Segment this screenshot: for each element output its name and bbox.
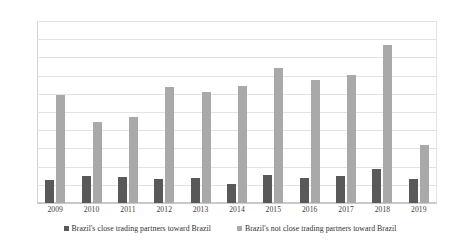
bar-group [110, 21, 146, 203]
bar-group [182, 21, 218, 203]
x-axis-tick-label: 2016 [292, 205, 328, 214]
x-axis-tick-label: 2013 [183, 205, 219, 214]
bar-group [255, 21, 291, 203]
bar-group [73, 21, 109, 203]
bar [154, 179, 163, 203]
bar [82, 176, 91, 203]
bar [118, 177, 127, 203]
bar [300, 178, 309, 203]
bar-group [219, 21, 255, 203]
x-axis-tick-label: 2018 [364, 205, 400, 214]
bar [274, 68, 283, 203]
bar-group [146, 21, 182, 203]
bar-chart: 050100150200250300350400450500 200920102… [0, 0, 460, 251]
bar [202, 92, 211, 203]
legend-item[interactable]: Brazil's close trading partners toward B… [64, 224, 211, 233]
x-axis: 2009201020112012201320142015201620172018… [37, 204, 437, 218]
bar-group [328, 21, 364, 203]
bars-layer [37, 21, 437, 203]
bar [129, 117, 138, 203]
legend-item-label: Brazil's close trading partners toward B… [72, 224, 211, 233]
bar [227, 184, 236, 203]
bar-group [37, 21, 73, 203]
bar [347, 75, 356, 203]
bar [93, 122, 102, 203]
bar [372, 169, 381, 203]
bar [191, 178, 200, 203]
bar-group [292, 21, 328, 203]
bar [336, 176, 345, 203]
bar [420, 145, 429, 203]
x-axis-tick-label: 2019 [401, 205, 437, 214]
bar [56, 95, 65, 203]
bar-group [364, 21, 400, 203]
chart-legend: Brazil's close trading partners toward B… [0, 224, 460, 233]
bar [383, 45, 392, 203]
legend-item-label: Brazil's not close trading partners towa… [245, 224, 397, 233]
bar [263, 175, 272, 203]
bar [165, 87, 174, 203]
x-axis-tick-label: 2015 [255, 205, 291, 214]
bar [311, 80, 320, 203]
bar [238, 86, 247, 203]
bar [45, 180, 54, 203]
legend-swatch-icon [64, 226, 69, 231]
x-axis-tick-label: 2009 [37, 205, 73, 214]
bar [409, 179, 418, 203]
x-axis-tick-label: 2011 [110, 205, 146, 214]
x-axis-tick-label: 2014 [219, 205, 255, 214]
legend-item[interactable]: Brazil's not close trading partners towa… [237, 224, 397, 233]
x-axis-tick-label: 2010 [74, 205, 110, 214]
x-axis-tick-label: 2012 [146, 205, 182, 214]
bar-group [401, 21, 437, 203]
x-axis-tick-label: 2017 [328, 205, 364, 214]
legend-swatch-icon [237, 226, 242, 231]
